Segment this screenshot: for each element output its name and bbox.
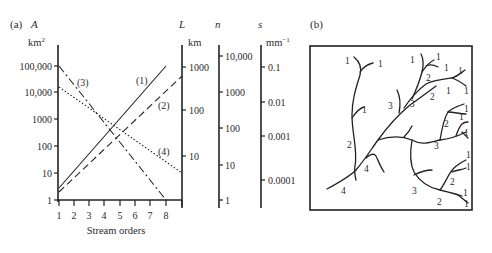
panel-b-label: (b) [310, 18, 323, 31]
svg-text:100: 100 [225, 123, 240, 134]
svg-text:3: 3 [87, 210, 92, 221]
axis-a-symbol: A [30, 18, 38, 30]
svg-text:1: 1 [466, 162, 471, 172]
svg-text:2: 2 [426, 73, 431, 83]
series-1-label: (1) [136, 75, 148, 87]
axis-s-tick-labels: 0.1 0.01 0.001 0.0001 [268, 62, 296, 186]
svg-text:4: 4 [341, 186, 346, 196]
svg-text:1000: 1000 [225, 87, 245, 98]
svg-text:1: 1 [466, 150, 471, 160]
svg-text:1: 1 [464, 104, 469, 114]
svg-text:10: 10 [225, 160, 235, 171]
series-4-label: (4) [158, 146, 170, 158]
svg-text:100: 100 [37, 141, 52, 152]
svg-text:7: 7 [148, 210, 153, 221]
svg-text:1: 1 [225, 195, 230, 206]
svg-text:1: 1 [57, 210, 62, 221]
axis-a-unit: km2 [28, 36, 45, 48]
svg-text:10: 10 [42, 168, 52, 179]
svg-text:1000: 1000 [189, 62, 209, 73]
svg-text:1: 1 [446, 86, 451, 96]
svg-text:0.1: 0.1 [268, 62, 281, 73]
svg-text:1: 1 [464, 128, 469, 138]
panel-b: (b) [310, 18, 472, 210]
svg-text:1: 1 [362, 105, 367, 115]
svg-text:1: 1 [463, 188, 468, 198]
svg-text:3: 3 [412, 186, 417, 196]
svg-text:3: 3 [410, 99, 415, 109]
svg-text:10: 10 [189, 151, 199, 162]
series-2-label: (2) [158, 100, 170, 112]
axis-l-symbol: L [178, 18, 185, 30]
panel-a: (a) A km2 100,000 10,000 1000 100 10 1 [10, 18, 296, 236]
series-labels: (1) (2) (3) (4) [77, 75, 170, 158]
svg-text:1: 1 [459, 112, 464, 122]
svg-text:1: 1 [47, 195, 52, 206]
axis-s-unit: mm−1 [266, 36, 290, 48]
series-3-dashdot-line [59, 66, 166, 200]
svg-text:1: 1 [458, 66, 463, 76]
svg-text:10,000: 10,000 [225, 51, 253, 62]
series-3-label: (3) [77, 77, 89, 89]
svg-text:100: 100 [189, 105, 204, 116]
svg-text:1: 1 [345, 56, 350, 66]
series-2-dashed-line [59, 76, 182, 192]
svg-text:0.001: 0.001 [268, 131, 291, 142]
x-axis-label: Stream orders [87, 225, 146, 236]
svg-text:8: 8 [164, 210, 169, 221]
panel-a-label: (a) [10, 18, 23, 31]
svg-text:1: 1 [436, 52, 441, 62]
axis-s-symbol: s [258, 18, 262, 30]
axis-l-tick-labels: 1000 100 10 [189, 62, 209, 162]
svg-text:3: 3 [388, 101, 393, 111]
x-axis-tick-labels: 1 2 3 4 5 6 7 8 [57, 210, 169, 221]
svg-text:1: 1 [444, 63, 449, 73]
svg-text:100,000: 100,000 [20, 61, 53, 72]
svg-text:0.0001: 0.0001 [268, 175, 296, 186]
svg-text:2: 2 [430, 92, 435, 102]
svg-text:1: 1 [410, 55, 415, 65]
axis-n-tick-labels: 10,000 1000 100 10 1 [225, 51, 253, 206]
axis-l-unit: km [188, 37, 201, 48]
svg-text:1: 1 [464, 199, 469, 209]
svg-text:5: 5 [118, 210, 123, 221]
svg-text:4: 4 [102, 210, 107, 221]
svg-text:0.01: 0.01 [268, 97, 286, 108]
svg-text:6: 6 [133, 210, 138, 221]
axis-a-tick-labels: 100,000 10,000 1000 100 10 1 [20, 61, 53, 206]
svg-text:10,000: 10,000 [25, 87, 53, 98]
x-axis-ticks [59, 200, 182, 206]
figure: (a) A km2 100,000 10,000 1000 100 10 1 [0, 0, 492, 253]
series-1-solid-line [59, 66, 166, 188]
svg-text:1: 1 [378, 59, 383, 69]
svg-text:2: 2 [347, 140, 352, 150]
svg-text:2: 2 [444, 119, 449, 129]
svg-text:2: 2 [450, 177, 455, 187]
svg-text:2: 2 [437, 197, 442, 207]
svg-text:4: 4 [364, 164, 369, 174]
svg-text:1000: 1000 [32, 114, 52, 125]
svg-text:2: 2 [72, 210, 77, 221]
svg-text:1: 1 [464, 86, 469, 96]
svg-text:3: 3 [434, 141, 439, 151]
axis-n-symbol: n [215, 18, 221, 30]
